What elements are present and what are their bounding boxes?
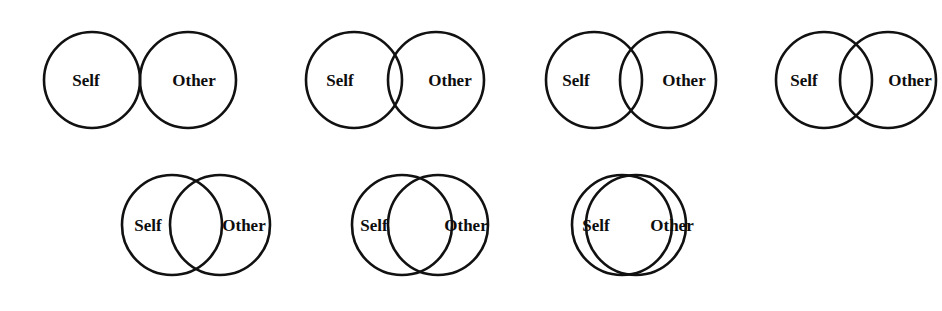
self-label: Self: [582, 216, 610, 235]
self-label: Self: [790, 71, 818, 90]
venn-diagram-4: SelfOther: [764, 0, 942, 160]
other-label: Other: [222, 216, 266, 235]
ios-scale-item-5[interactable]: SelfOther: [108, 160, 318, 311]
other-label: Other: [662, 71, 706, 90]
other-label: Other: [172, 71, 216, 90]
self-label: Self: [360, 216, 388, 235]
venn-diagram-5: SelfOther: [108, 160, 318, 311]
ios-scale-item-2[interactable]: SelfOther: [292, 0, 504, 160]
venn-diagram-2: SelfOther: [292, 0, 504, 160]
ios-scale-item-7[interactable]: SelfOther: [560, 160, 758, 311]
ios-scale-item-6[interactable]: SelfOther: [340, 160, 538, 311]
ios-scale-row-top: SelfOtherSelfOtherSelfOtherSelfOther: [0, 0, 868, 160]
self-circle: [546, 32, 642, 128]
ios-scale-row-bottom: SelfOtherSelfOtherSelfOther: [0, 160, 942, 311]
other-label: Other: [428, 71, 472, 90]
ios-scale-item-3[interactable]: SelfOther: [532, 0, 736, 160]
other-label: Other: [650, 216, 694, 235]
other-label: Other: [444, 216, 488, 235]
self-label: Self: [72, 71, 100, 90]
self-label: Self: [562, 71, 590, 90]
venn-diagram-1: SelfOther: [20, 0, 264, 160]
venn-diagram-7: SelfOther: [560, 160, 758, 311]
self-label: Self: [326, 71, 354, 90]
self-label: Self: [134, 216, 162, 235]
other-label: Other: [888, 71, 932, 90]
venn-diagram-6: SelfOther: [340, 160, 538, 311]
ios-scale-item-1[interactable]: SelfOther: [20, 0, 264, 160]
ios-scale-item-4[interactable]: SelfOther: [764, 0, 942, 160]
venn-diagram-3: SelfOther: [532, 0, 736, 160]
